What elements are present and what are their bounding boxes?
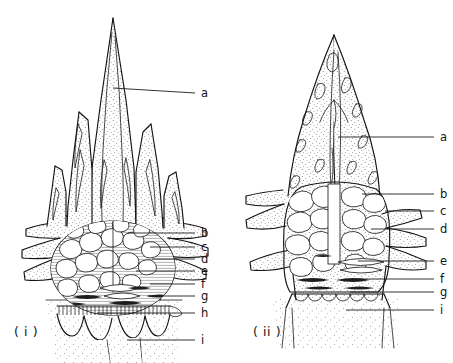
label-ii-g: g [440, 285, 447, 299]
panel-i-spines [47, 18, 184, 228]
label-ii-c: c [440, 204, 446, 218]
label-i-g: g [201, 289, 208, 303]
label-ii-i: i [440, 303, 443, 317]
panel-ii: a b c d e f g i ( ii ) [246, 35, 447, 348]
label-i-e: e [201, 264, 208, 278]
label-ii-e: e [440, 254, 447, 268]
figure-root: a b c d e f g h i ( i ) [0, 0, 453, 363]
anatomical-diagram: a b c d e f g h i ( i ) [0, 0, 453, 363]
label-ii-a: a [440, 130, 447, 144]
caption-panel-ii: ( ii ) [253, 324, 281, 339]
label-ii-b: b [440, 187, 447, 201]
panel-ii-spines [288, 35, 380, 198]
panel-i: a b c d e f g h i ( i ) [14, 18, 208, 363]
label-i-a: a [201, 86, 208, 100]
label-i-h: h [201, 306, 208, 320]
label-i-b: b [201, 226, 208, 240]
label-i-i: i [201, 333, 204, 347]
label-ii-f: f [440, 272, 445, 286]
label-ii-d: d [440, 222, 447, 236]
caption-panel-i: ( i ) [14, 324, 38, 339]
